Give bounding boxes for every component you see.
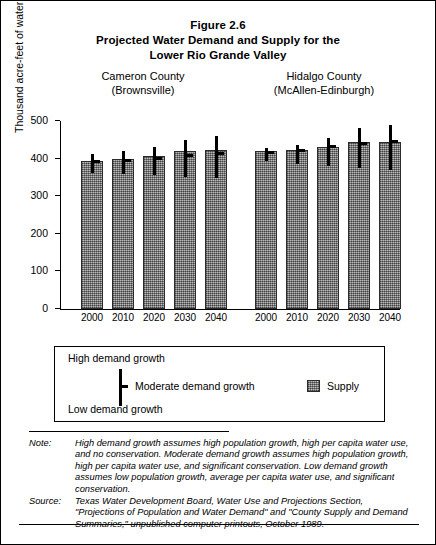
y-tick-label-0: 0 [42, 303, 48, 313]
legend-high-label: High demand growth [68, 352, 165, 364]
x-tick-label-2000: 2000 [249, 312, 283, 323]
y-tick-200: 200 [55, 233, 60, 234]
y-axis-line [60, 121, 61, 309]
demand-moderate-marker [215, 152, 224, 155]
y-tick-0: 0 [55, 308, 60, 309]
y-tick-label-100: 100 [30, 265, 48, 275]
group-subtitle-cameron: (Brownsville) [73, 83, 213, 97]
x-tick-label-2000: 2000 [75, 312, 109, 323]
x-tick-label-2030: 2030 [168, 312, 202, 323]
bar-supply [143, 156, 165, 309]
demand-range-errorbar [327, 138, 330, 166]
demand-moderate-marker [184, 154, 193, 157]
y-tick-300: 300 [55, 195, 60, 196]
bar-supply [255, 151, 277, 309]
demand-range-errorbar [358, 128, 361, 168]
source-key: Source: [29, 496, 75, 530]
group-subtitle-hidalgo: (McAllen-Edinburgh) [239, 83, 409, 97]
demand-range-errorbar [296, 145, 299, 164]
x-tick-label-2040: 2040 [373, 312, 407, 323]
bar-supply [81, 161, 103, 309]
demand-moderate-marker [122, 159, 131, 162]
legend-supply-label: Supply [327, 380, 359, 392]
x-tick-label-2020: 2020 [137, 312, 171, 323]
y-tick-400: 400 [55, 158, 60, 159]
figure-container: Figure 2.6 Projected Water Demand and Su… [0, 0, 436, 545]
group-name-cameron: Cameron County [73, 69, 213, 83]
demand-range-errorbar [91, 154, 94, 172]
title-line-1: Figure 2.6 [19, 18, 417, 33]
plot-area: Thousand acre-feet of water per year 010… [60, 113, 400, 309]
notes-divider [29, 431, 229, 432]
demand-moderate-marker [153, 157, 162, 160]
x-tick-label-2010: 2010 [280, 312, 314, 323]
note-row: Note: High demand growth assumes high po… [29, 438, 411, 495]
legend-low-label: Low demand growth [68, 403, 163, 415]
title-line-3: Lower Rio Grande Valley [19, 48, 417, 63]
x-tick-label-2010: 2010 [106, 312, 140, 323]
demand-moderate-marker [296, 149, 305, 152]
figure-title: Figure 2.6 Projected Water Demand and Su… [19, 18, 417, 63]
bar-supply [317, 147, 339, 309]
y-tick-100: 100 [55, 270, 60, 271]
group-heading-hidalgo: Hidalgo County (McAllen-Edinburgh) [239, 69, 409, 97]
legend: High demand growth Moderate demand growt… [54, 346, 385, 422]
demand-moderate-marker [358, 142, 367, 145]
bottom-divider [19, 524, 419, 525]
demand-moderate-marker [91, 160, 100, 163]
group-name-hidalgo: Hidalgo County [239, 69, 409, 83]
x-tick-label-2020: 2020 [311, 312, 345, 323]
source-row: Source: Texas Water Development Board, W… [29, 496, 411, 530]
y-tick-label-300: 300 [30, 190, 48, 200]
demand-range-errorbar [153, 147, 156, 175]
x-tick-label-2040: 2040 [199, 312, 233, 323]
demand-range-errorbar [215, 136, 218, 178]
notes-block: Note: High demand growth assumes high po… [29, 438, 411, 530]
bar-supply [112, 159, 134, 309]
y-tick-label-400: 400 [30, 153, 48, 163]
demand-range-errorbar [389, 125, 392, 170]
y-axis-title: Thousand acre-feet of water per year [13, 0, 25, 133]
demand-moderate-marker [389, 140, 398, 143]
note-key: Note: [29, 438, 75, 495]
y-tick-label-500: 500 [30, 115, 48, 125]
legend-errorbar-cap-icon [119, 385, 128, 388]
x-tick-label-2030: 2030 [342, 312, 376, 323]
group-heading-cameron: Cameron County (Brownsville) [73, 69, 213, 97]
demand-range-errorbar [184, 140, 187, 177]
x-axis-line [60, 309, 400, 310]
demand-range-errorbar [122, 151, 125, 174]
note-text: High demand growth assumes high populati… [75, 438, 411, 495]
bar-supply [286, 150, 308, 309]
title-line-2: Projected Water Demand and Supply for th… [19, 33, 417, 48]
demand-moderate-marker [265, 151, 274, 154]
y-tick-label-200: 200 [30, 228, 48, 238]
y-tick-500: 500 [55, 120, 60, 121]
legend-moderate-label: Moderate demand growth [135, 380, 255, 392]
legend-supply-swatch-icon [307, 380, 320, 392]
demand-range-errorbar [265, 148, 268, 161]
demand-moderate-marker [327, 145, 336, 148]
source-text: Texas Water Development Board, Water Use… [75, 496, 411, 530]
